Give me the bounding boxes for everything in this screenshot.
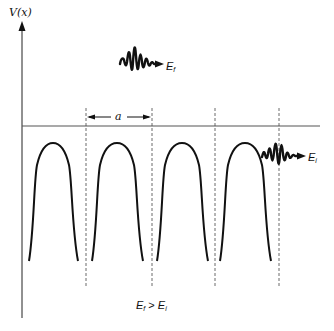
energy-final-label: Ef xyxy=(166,60,176,73)
arrow-left-icon xyxy=(87,115,95,120)
cell-boundaries xyxy=(86,108,279,287)
arrow-right-icon xyxy=(143,115,151,120)
potential-peak-4 xyxy=(220,143,271,261)
period-label: a xyxy=(115,110,122,123)
potential-peaks xyxy=(29,143,271,261)
y-axis xyxy=(19,21,26,318)
energy-condition: Ef > Ei xyxy=(136,299,167,312)
potential-peak-1 xyxy=(29,143,78,261)
wave-packet-final xyxy=(120,47,164,69)
arrow-right-icon xyxy=(155,61,164,68)
y-axis-arrow-icon xyxy=(19,21,26,31)
arrow-right-icon xyxy=(297,153,306,160)
potential-peak-2 xyxy=(92,143,143,261)
potential-peak-3 xyxy=(157,143,208,261)
y-axis-label: V(x) xyxy=(9,6,32,19)
wave-packet-initial xyxy=(262,144,306,164)
energy-initial-label: Ei xyxy=(308,151,317,164)
periodic-potential-diagram: V(x) a Ef Ei Ef > E xyxy=(0,0,334,331)
